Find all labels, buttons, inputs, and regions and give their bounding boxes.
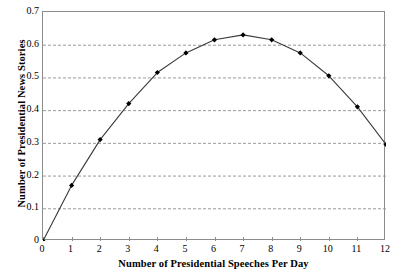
x-tick-label: 10	[317, 243, 339, 255]
x-axis-tick-marks	[44, 237, 387, 241]
x-tick-label: 12	[374, 243, 396, 255]
x-tick-label: 1	[60, 243, 82, 255]
y-tick-label: 0.2	[5, 170, 39, 180]
chart-plot-svg	[43, 12, 386, 241]
y-tick-label: 0.4	[5, 104, 39, 114]
x-tick-label: 5	[174, 243, 196, 255]
x-tick-label: 4	[145, 243, 167, 255]
y-tick-label: 0.3	[5, 137, 39, 147]
x-axis-title: Number of Presidential Speeches Per Day	[42, 258, 385, 269]
y-axis-tick-labels: 00.10.20.30.40.50.60.7	[0, 0, 39, 277]
data-line	[43, 35, 386, 241]
y-tick-label: 0.7	[5, 6, 39, 16]
data-point-marker	[240, 32, 245, 37]
data-markers	[43, 32, 386, 241]
x-tick-label: 0	[31, 243, 53, 255]
x-tick-label: 9	[288, 243, 310, 255]
x-tick-label: 7	[231, 243, 253, 255]
x-tick-label: 8	[260, 243, 282, 255]
data-point-marker	[69, 183, 74, 188]
x-tick-label: 11	[345, 243, 367, 255]
data-point-marker	[212, 37, 217, 42]
x-tick-label: 2	[88, 243, 110, 255]
y-tick-label: 0.5	[5, 71, 39, 81]
gridlines	[43, 45, 386, 209]
x-axis-tick-labels: 0123456789101112	[0, 243, 401, 259]
y-tick-label: 0.6	[5, 39, 39, 49]
data-point-marker	[269, 37, 274, 42]
plot-area	[42, 11, 385, 240]
x-tick-label: 3	[117, 243, 139, 255]
y-tick-label: 0.1	[5, 202, 39, 212]
x-tick-label: 6	[203, 243, 225, 255]
chart-container: Number of Presidential News Stories 00.1…	[0, 0, 401, 277]
